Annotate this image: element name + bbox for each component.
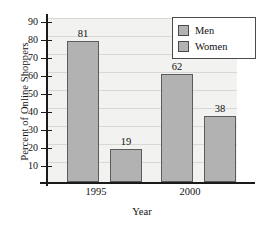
bar-chart: Percent of Online Shoppers 81 19 62 38 9…: [0, 0, 267, 231]
y-axis-tick-label: 10: [16, 161, 38, 171]
bar-1995-women: [110, 149, 142, 182]
bar-value-label: 81: [68, 28, 98, 39]
x-axis-title: Year: [47, 206, 237, 217]
y-axis-tick: [41, 94, 52, 95]
y-axis-tick-label: 70: [16, 53, 38, 63]
bar-2000-women: [204, 116, 236, 182]
legend-swatch-icon: [178, 25, 189, 36]
y-axis-tick: [41, 130, 52, 131]
y-axis-tick: [41, 58, 52, 59]
y-axis-tick: [41, 40, 52, 41]
x-axis-tick-label-1995: 1995: [66, 186, 126, 197]
y-axis-tick: [41, 76, 52, 77]
legend-item-women: Women: [178, 38, 250, 54]
legend-swatch-icon: [178, 41, 189, 52]
legend-item-men: Men: [178, 22, 250, 38]
x-axis-line: [40, 182, 255, 184]
y-axis-tick: [41, 148, 52, 149]
y-axis-tick-label: 30: [16, 125, 38, 135]
legend: Men Women: [172, 17, 256, 59]
y-axis-tick: [41, 22, 52, 23]
y-axis-tick-label: 20: [16, 143, 38, 153]
legend-label: Women: [195, 41, 227, 52]
y-axis-tick-label: 60: [16, 71, 38, 81]
y-axis-title: Percent of Online Shoppers: [19, 22, 30, 182]
y-axis-tick: [41, 166, 52, 167]
legend-label: Men: [195, 25, 214, 36]
y-axis-tick-label: 80: [16, 35, 38, 45]
x-axis-tick-label-2000: 2000: [160, 186, 220, 197]
y-axis-tick-label: 50: [16, 89, 38, 99]
bar-value-label: 38: [205, 103, 235, 114]
bar-2000-men: [161, 74, 193, 182]
y-axis-tick-label: 90: [16, 17, 38, 27]
bar-value-label: 19: [111, 136, 141, 147]
bar-1995-men: [67, 41, 99, 182]
y-axis-tick-label: 40: [16, 107, 38, 117]
bar-value-label: 62: [162, 61, 192, 72]
y-axis-tick: [41, 112, 52, 113]
